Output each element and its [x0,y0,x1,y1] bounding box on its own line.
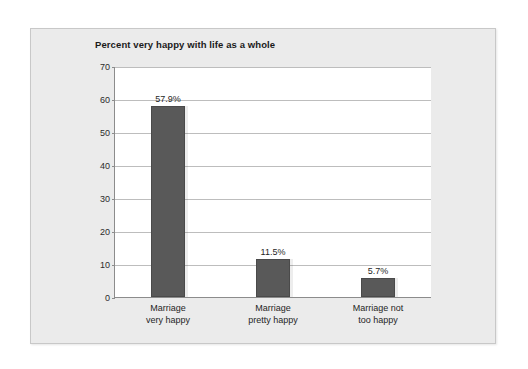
category-label-line-1: Marriage [248,303,298,315]
bar-value-marriage-not-too-happy: 5.7% [368,266,389,276]
bar-group-marriage-very-happy: 57.9% Marriage very happy [115,67,221,297]
category-label-line-2: pretty happy [248,315,298,327]
ytick-label-0: 0 [105,293,110,303]
ytick-label-70: 70 [100,62,110,72]
category-label-line-2: very happy [146,315,190,327]
ytick-label-60: 60 [100,95,110,105]
category-label-marriage-pretty-happy: Marriage pretty happy [248,303,298,326]
ytick-label-40: 40 [100,161,110,171]
chart-panel: Percent very happy with life as a whole … [30,28,496,344]
chart-title: Percent very happy with life as a whole [95,39,275,50]
bar-marriage-very-happy[interactable] [151,106,185,297]
bar-group-marriage-pretty-happy: 11.5% Marriage pretty happy [220,67,326,297]
ytick-mark-0 [112,298,115,299]
category-label-marriage-very-happy: Marriage very happy [146,303,190,326]
category-label-line-1: Marriage not [353,303,404,315]
ytick-label-10: 10 [100,260,110,270]
ytick-label-30: 30 [100,194,110,204]
bar-marriage-not-too-happy[interactable] [361,278,395,297]
bar-value-marriage-pretty-happy: 11.5% [261,247,286,257]
bar-value-marriage-very-happy: 57.9% [155,94,181,104]
ytick-label-20: 20 [100,227,110,237]
category-label-line-2: too happy [353,315,404,327]
category-label-line-1: Marriage [146,303,190,315]
plot-area: 70 60 50 40 30 20 10 0 57.9% Marriage ve… [114,67,431,298]
category-label-marriage-not-too-happy: Marriage not too happy [353,303,404,326]
bar-marriage-pretty-happy[interactable] [256,259,290,297]
bar-group-marriage-not-too-happy: 5.7% Marriage not too happy [325,67,431,297]
ytick-label-50: 50 [100,128,110,138]
